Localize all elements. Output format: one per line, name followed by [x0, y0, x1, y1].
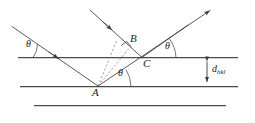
diagram-canvas: [0, 0, 255, 123]
label-theta-at-C: θ: [165, 41, 170, 51]
label-d-spacing: dhkl: [212, 64, 226, 76]
label-theta-incident-left: θ: [26, 39, 31, 49]
arc-theta-incident-left: [33, 44, 38, 57]
label-theta-at-A: θ: [118, 68, 123, 78]
arc-theta-at-A: [126, 70, 131, 87]
label-point-B: B: [130, 33, 137, 44]
incident-ray-2-arrowhead: [103, 22, 112, 30]
bragg-diffraction-figure: A B C θ θ θ dhkl: [0, 0, 255, 123]
arc-theta-at-C: [169, 39, 176, 58]
dashed-line-A-to-B: [98, 46, 131, 86]
d-spacing-subscript: hkl: [217, 68, 226, 76]
label-point-A: A: [92, 87, 99, 98]
reflected-ray-from-A: [98, 11, 210, 87]
label-point-C: C: [143, 58, 150, 69]
